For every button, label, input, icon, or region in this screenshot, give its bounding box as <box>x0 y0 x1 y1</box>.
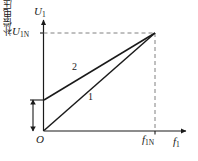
y-tick-label-symbol: U <box>12 25 20 37</box>
curve-line-1 <box>44 33 155 131</box>
x-axis-label-subscript: 1 <box>176 140 180 149</box>
origin-label: O <box>36 134 44 145</box>
y-axis-label: U1 <box>34 6 46 17</box>
x-axis-label: f1 <box>173 136 180 147</box>
x-tick-label-subscript: 1N <box>145 138 154 147</box>
compensation-span-arrow <box>30 99 36 131</box>
x-tick-label-f1n: f1N <box>142 134 154 145</box>
y-axis-label-symbol: U <box>34 5 42 17</box>
compensation-voltage-label: 补偿电压 <box>0 0 13 36</box>
vf-characteristic-figure: U1 U1N O f1N f1 1 2 补偿电压 <box>0 0 198 161</box>
y-axis-label-subscript: 1 <box>42 10 46 19</box>
plot-canvas <box>0 0 198 161</box>
curve-2-annotation: 2 <box>72 62 77 72</box>
curve-line-2 <box>44 33 155 100</box>
curve-1-annotation: 1 <box>88 92 93 102</box>
y-tick-label-subscript: 1N <box>20 30 29 39</box>
y-tick-label-u1n: U1N <box>12 26 29 37</box>
